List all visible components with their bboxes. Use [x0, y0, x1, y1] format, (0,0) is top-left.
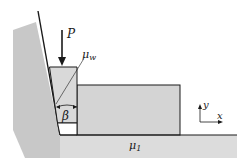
- wedge-base: [58, 123, 78, 135]
- force-arrow: [58, 30, 66, 66]
- floor: [55, 135, 237, 158]
- wedge-block-diagram: P μw β y x μ1: [0, 0, 247, 158]
- angle-label: β: [61, 109, 69, 123]
- wall-friction-label: μw: [82, 48, 96, 62]
- axis-x-label: x: [217, 110, 223, 121]
- block: [77, 85, 180, 135]
- axis-y-label: y: [202, 99, 209, 110]
- force-label: P: [66, 27, 76, 41]
